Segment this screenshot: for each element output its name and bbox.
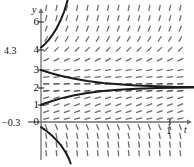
slope-field-tick	[107, 5, 108, 11]
solution-curves-group	[41, 0, 194, 164]
slope-field-tick	[53, 118, 59, 119]
slope-field-tick	[54, 111, 60, 113]
slope-field-tick	[177, 118, 183, 119]
slope-field-tick	[179, 26, 181, 32]
slope-field-tick	[159, 150, 160, 156]
slope-field-tick	[84, 77, 90, 78]
slope-field-tick	[115, 69, 121, 70]
slope-field-tick	[74, 97, 80, 99]
slope-field-tick	[76, 15, 78, 21]
slope-field-tick	[56, 141, 57, 147]
slope-field-tick	[43, 77, 49, 78]
x-axis-label: t	[184, 124, 187, 135]
slope-field-tick	[158, 36, 161, 41]
slope-field-tick	[74, 77, 80, 78]
slope-field-tick	[157, 90, 163, 91]
slope-field-tick	[157, 97, 163, 99]
x-tick-label: 1	[166, 125, 172, 136]
slope-field-tick	[96, 47, 100, 51]
x-axis-arrow	[187, 119, 192, 124]
slope-field-tick	[159, 141, 160, 147]
slope-field-tick	[146, 118, 152, 119]
slope-field-tick	[86, 36, 89, 41]
slope-field-tick	[95, 97, 101, 99]
slope-field-tick	[116, 104, 122, 106]
slope-field-tick	[157, 111, 163, 113]
slope-field-tick	[146, 90, 152, 91]
slope-field-tick	[97, 133, 98, 139]
slope-field-tick	[64, 58, 70, 61]
slope-field-tick	[74, 104, 80, 106]
slope-field-tick	[177, 90, 183, 91]
slope-field-tick	[53, 90, 59, 91]
slope-field-tick	[136, 77, 142, 78]
slope-field-tick	[64, 118, 70, 119]
slope-field-tick	[43, 58, 49, 61]
slope-field-tick	[126, 104, 132, 106]
slope-field-tick	[118, 150, 119, 156]
slope-field-tick	[118, 133, 119, 139]
slope-field-tick	[139, 150, 140, 156]
slope-field-tick	[54, 47, 58, 51]
slope-field-tick	[159, 133, 160, 139]
slope-field-tick	[107, 124, 109, 130]
slope-field-tick	[177, 77, 183, 78]
slope-field-tick	[116, 47, 120, 51]
slope-field-tick	[56, 133, 57, 139]
slope-field-tick	[170, 141, 171, 147]
slope-field-tick	[86, 26, 88, 32]
slope-field-tick	[87, 150, 88, 156]
slope-field-tick	[53, 77, 59, 78]
slope-field-tick	[147, 47, 151, 51]
slope-field-tick	[43, 97, 49, 99]
slope-field-tick	[95, 69, 101, 70]
slope-field-tick	[148, 36, 151, 41]
slope-field-tick	[157, 47, 161, 51]
slope-field-tick	[115, 97, 121, 99]
slope-field-tick	[170, 150, 171, 156]
slope-field-tick	[139, 141, 140, 147]
slope-field-tick	[117, 36, 120, 41]
slope-field-tick	[85, 58, 91, 61]
slope-field-tick	[159, 5, 160, 11]
slope-field-tick	[168, 36, 171, 41]
slope-field-tick	[138, 5, 139, 11]
slope-field-tick	[74, 90, 80, 91]
slope-field-tick	[97, 15, 99, 21]
slope-field-tick	[54, 58, 60, 61]
slope-field-tick	[85, 104, 91, 106]
slope-field-tick	[56, 150, 57, 156]
slope-field-tick	[180, 133, 181, 139]
y-axis-label: y	[32, 4, 36, 15]
slope-field-tick	[115, 118, 121, 119]
slope-field-tick	[74, 58, 80, 61]
slope-field-tick	[66, 141, 67, 147]
slope-field-tick	[148, 124, 150, 130]
slope-field-tick	[54, 104, 60, 106]
slope-field-tick	[136, 90, 142, 91]
slope-field-tick	[105, 104, 111, 106]
slope-field-tick	[95, 111, 101, 113]
slope-field-tick	[115, 77, 121, 78]
slope-field-tick	[84, 69, 90, 70]
slope-field-tick	[56, 15, 58, 21]
slope-field-tick	[169, 15, 171, 21]
slope-field-tick	[77, 150, 78, 156]
slope-field-tick	[87, 15, 89, 21]
slope-field-tick	[87, 141, 88, 147]
slope-field-tick	[97, 150, 98, 156]
slope-field-tick	[157, 104, 163, 106]
slope-field-tick	[106, 47, 110, 51]
slope-field-tick	[136, 118, 142, 119]
slope-field-tick	[180, 150, 181, 156]
slope-field-tick	[105, 118, 111, 119]
slope-field-tick	[128, 141, 129, 147]
y-tick-label: 2	[29, 82, 39, 93]
slope-field-tick	[146, 69, 152, 70]
slope-field-tick	[149, 15, 151, 21]
slope-field-tick	[107, 15, 109, 21]
slope-field-tick	[167, 97, 173, 99]
slope-field-tick	[107, 26, 109, 32]
slope-field-tick	[136, 111, 142, 113]
slope-field-tick	[95, 58, 101, 61]
